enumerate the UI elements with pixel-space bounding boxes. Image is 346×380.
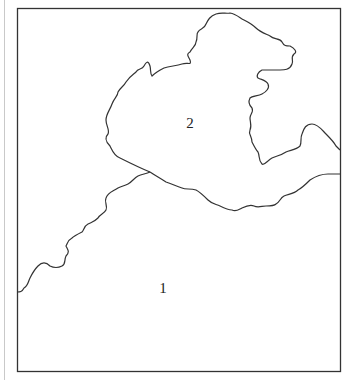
region-map bbox=[0, 0, 346, 380]
region-2-label: 2 bbox=[186, 116, 194, 131]
region-1-2-boundary bbox=[150, 172, 340, 211]
region-2-boundary bbox=[106, 13, 340, 172]
region-1-boundary bbox=[17, 172, 150, 292]
region-1-label: 1 bbox=[159, 281, 167, 296]
